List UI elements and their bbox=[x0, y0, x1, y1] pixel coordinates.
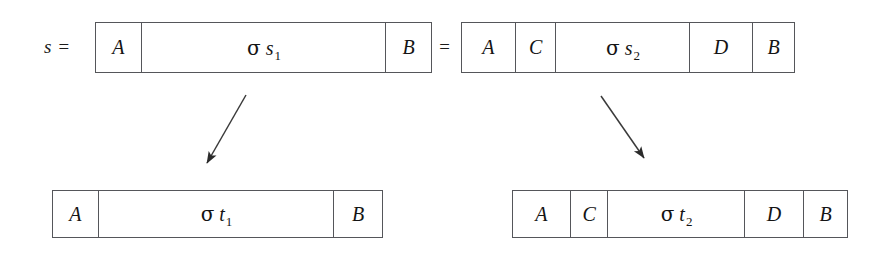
subscript-2: 2 bbox=[686, 214, 693, 230]
cell-C: C bbox=[516, 23, 557, 72]
cell-sigma-t1: σt1 bbox=[99, 191, 335, 237]
box-sigma-t1: A σt1 B bbox=[52, 190, 383, 238]
box-sigma-t2: A C σt2 D B bbox=[512, 190, 848, 238]
cell-D: D bbox=[745, 191, 805, 237]
label-equals: = bbox=[438, 36, 451, 58]
cell-A: A bbox=[96, 23, 142, 72]
cell-sigma-s1: σs1 bbox=[142, 23, 387, 72]
variable-t: t bbox=[219, 203, 225, 226]
cell-B: B bbox=[753, 23, 794, 72]
subscript-2: 2 bbox=[633, 48, 640, 64]
sigma-glyph: σ bbox=[247, 36, 261, 60]
figure-canvas: s = A σs1 B = A C σs2 D B bbox=[0, 0, 894, 254]
cell-sigma-s2: σs2 bbox=[556, 23, 689, 72]
cell-B: B bbox=[386, 23, 431, 72]
variable-t: t bbox=[679, 203, 685, 226]
cell-A: A bbox=[513, 191, 571, 237]
sigma-glyph: σ bbox=[201, 202, 215, 226]
math-sigma-t2: σt2 bbox=[661, 202, 692, 226]
cell-D: D bbox=[690, 23, 754, 72]
variable-s: s bbox=[625, 37, 633, 60]
variable-s: s bbox=[266, 37, 274, 60]
cell-A: A bbox=[462, 23, 516, 72]
math-sigma-s1: σs1 bbox=[247, 36, 280, 60]
box-sigma-s2: A C σs2 D B bbox=[461, 22, 795, 73]
sigma-glyph: σ bbox=[606, 36, 620, 60]
cell-C: C bbox=[571, 191, 609, 237]
subscript-1: 1 bbox=[274, 48, 281, 64]
sigma-glyph: σ bbox=[661, 202, 675, 226]
cell-B: B bbox=[334, 191, 382, 237]
rewrite-arrow-right bbox=[601, 96, 644, 158]
rewrite-arrow-left bbox=[207, 95, 246, 163]
cell-sigma-t2: σt2 bbox=[608, 191, 744, 237]
subscript-1: 1 bbox=[226, 214, 233, 230]
box-sigma-s1: A σs1 B bbox=[95, 22, 432, 73]
cell-A: A bbox=[53, 191, 99, 237]
cell-B: B bbox=[804, 191, 847, 237]
math-sigma-s2: σs2 bbox=[606, 36, 639, 60]
label-s-equals: s = bbox=[44, 36, 70, 58]
math-sigma-t1: σt1 bbox=[201, 202, 232, 226]
